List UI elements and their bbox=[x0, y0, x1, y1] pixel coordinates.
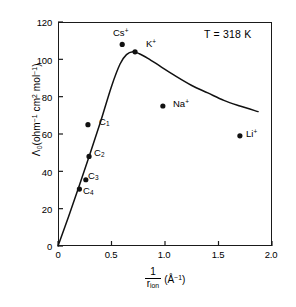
x-tick-label-0: 0 bbox=[45, 250, 71, 260]
point-label-c4: C4 bbox=[83, 186, 93, 197]
x-tick-label-1-5: 1.5 bbox=[205, 250, 231, 260]
x-tick-label-2-0: 2.0 bbox=[258, 250, 284, 260]
fraction-denominator: rion bbox=[145, 279, 161, 290]
fraction-numerator: 1 bbox=[145, 267, 161, 279]
x-tick-label-0-5: 0.5 bbox=[98, 250, 124, 260]
point-label-c2: C2 bbox=[94, 148, 104, 159]
y-tick-label-20: 20 bbox=[26, 205, 52, 215]
figure-container: 0 20 40 60 80 100 120 0 0.5 1.0 1.5 2.0 … bbox=[0, 0, 296, 307]
x-tick-label-1-0: 1.0 bbox=[151, 250, 177, 260]
point-label-c3: C3 bbox=[88, 171, 98, 182]
plot-frame bbox=[58, 22, 272, 246]
temperature-annotation: T = 318 K bbox=[204, 28, 251, 40]
x-axis-title-fraction: 1 rion bbox=[145, 267, 161, 289]
point-label-k: K+ bbox=[146, 39, 156, 49]
y-axis-title: Λ0(ohm−1 cm2 mol−1) bbox=[31, 15, 42, 205]
point-label-na: Na+ bbox=[173, 99, 189, 109]
point-label-li: Li+ bbox=[246, 129, 257, 139]
y-axis-title-text: Λ0(ohm−1 cm2 mol−1) bbox=[31, 63, 42, 156]
x-axis-title: 1 rion (Å−1) bbox=[110, 268, 220, 290]
point-label-cs: Cs+ bbox=[113, 28, 128, 38]
point-label-c1: C1 bbox=[99, 117, 109, 128]
x-axis-unit: (Å−1) bbox=[164, 274, 185, 285]
